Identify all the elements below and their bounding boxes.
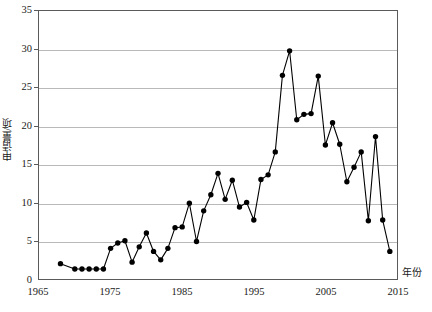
data-point (366, 218, 371, 223)
data-point (208, 192, 213, 197)
x-tick-label-2005: 2005 (303, 287, 349, 298)
y-tick-label-10: 10 (4, 198, 32, 209)
data-series-layer (39, 11, 397, 279)
data-point (265, 172, 270, 177)
data-point (330, 120, 335, 125)
data-point (151, 249, 156, 254)
data-point (359, 149, 364, 154)
data-point (165, 246, 170, 251)
data-point (222, 197, 227, 202)
line-chart: 申请量/项 年份 05101520253035 1965197519851995… (0, 0, 432, 312)
x-tick-label-1965: 1965 (15, 287, 61, 298)
data-point (129, 259, 134, 264)
data-point (380, 217, 385, 222)
x-tick-label-2015: 2015 (375, 287, 421, 298)
data-point (237, 204, 242, 209)
data-point (308, 111, 313, 116)
y-tick-label-15: 15 (4, 159, 32, 170)
data-point (344, 179, 349, 184)
data-point (180, 224, 185, 229)
data-point (351, 165, 356, 170)
data-point (86, 266, 91, 271)
y-tick-label-0: 0 (4, 275, 32, 286)
data-point (273, 149, 278, 154)
data-point (387, 249, 392, 254)
data-point (287, 48, 292, 53)
y-tick-label-35: 35 (4, 5, 32, 16)
x-tick-label-1985: 1985 (159, 287, 205, 298)
y-tick-label-5: 5 (4, 236, 32, 247)
y-tick-label-25: 25 (4, 82, 32, 93)
data-point (337, 142, 342, 147)
data-point (323, 142, 328, 147)
data-point (194, 239, 199, 244)
data-point (108, 246, 113, 251)
data-point (158, 257, 163, 262)
data-point (79, 266, 84, 271)
data-point (215, 171, 220, 176)
data-point (94, 266, 99, 271)
x-axis-title: 年份 (402, 268, 422, 278)
data-point (301, 112, 306, 117)
data-point (122, 238, 127, 243)
data-point (280, 73, 285, 78)
y-tick-label-20: 20 (4, 121, 32, 132)
data-point (115, 240, 120, 245)
data-point (258, 177, 263, 182)
data-point (316, 73, 321, 78)
data-point (144, 230, 149, 235)
data-point (58, 261, 63, 266)
plot-area (38, 10, 398, 280)
x-tick-label-1995: 1995 (231, 287, 277, 298)
data-point (251, 217, 256, 222)
data-point (101, 266, 106, 271)
data-point (172, 225, 177, 230)
data-point (373, 134, 378, 139)
data-point (72, 266, 77, 271)
data-point (187, 201, 192, 206)
data-point (137, 244, 142, 249)
data-point (294, 117, 299, 122)
data-point (230, 178, 235, 183)
data-point (201, 208, 206, 213)
series-line-0 (60, 51, 389, 269)
y-tick-label-30: 30 (4, 44, 32, 55)
data-point (244, 200, 249, 205)
x-tick-label-1975: 1975 (87, 287, 133, 298)
